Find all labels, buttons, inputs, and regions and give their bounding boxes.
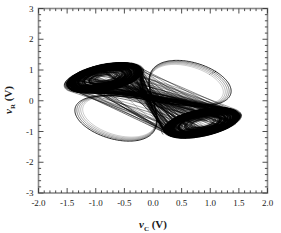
svg-text:-1.5: -1.5 xyxy=(60,198,75,208)
svg-text:-1: -1 xyxy=(26,127,34,137)
svg-text:2.0: 2.0 xyxy=(262,198,274,208)
svg-text:-2.0: -2.0 xyxy=(31,198,46,208)
svg-text:-1.0: -1.0 xyxy=(89,198,104,208)
svg-text:-2: -2 xyxy=(26,157,34,167)
svg-text:0.5: 0.5 xyxy=(176,198,188,208)
figure-panel: -2.0-1.5-1.0-0.50.00.51.01.52.0 -3-2-101… xyxy=(0,0,281,233)
svg-text:0: 0 xyxy=(29,96,34,106)
svg-text:1.0: 1.0 xyxy=(205,198,217,208)
phase-portrait-chart: -2.0-1.5-1.0-0.50.00.51.01.52.0 -3-2-101… xyxy=(0,0,281,233)
svg-text:1.5: 1.5 xyxy=(233,198,245,208)
svg-text:3: 3 xyxy=(29,4,34,14)
svg-text:-3: -3 xyxy=(26,188,34,198)
svg-text:0.0: 0.0 xyxy=(147,198,159,208)
svg-text:1: 1 xyxy=(29,65,34,75)
x-axis-tick-labels: -2.0-1.5-1.0-0.50.00.51.01.52.0 xyxy=(31,198,273,208)
svg-text:2: 2 xyxy=(29,34,34,44)
svg-text:-0.5: -0.5 xyxy=(117,198,132,208)
